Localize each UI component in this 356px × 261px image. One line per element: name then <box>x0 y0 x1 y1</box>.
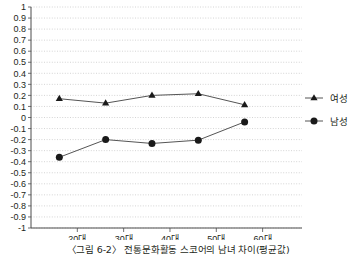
y-axis-tick-label: -0.7 <box>10 190 26 200</box>
y-axis-tick-label: 0.7 <box>13 35 26 45</box>
legend-triangle-marker-icon <box>310 94 317 100</box>
y-axis-tick-label: 0 <box>21 113 26 123</box>
y-axis-tick-label: -0.8 <box>10 201 26 211</box>
y-axis-tick-label: 0.6 <box>13 46 26 56</box>
y-axis-tick-label: -0.9 <box>10 212 26 222</box>
y-axis-tick-label: 0.4 <box>13 69 26 79</box>
legend-circle-marker-icon <box>311 118 318 125</box>
y-axis-tick-label: -0.5 <box>10 168 26 178</box>
data-point-marker <box>148 92 155 98</box>
data-point-marker <box>56 154 63 161</box>
y-axis-tick-label: -0.3 <box>10 146 26 156</box>
x-axis-tick-label: 20대 <box>68 234 86 240</box>
x-axis-tick-label: 50대 <box>207 234 225 240</box>
y-axis-tick-label: 0.5 <box>13 57 26 67</box>
y-axis-ticks-group: 10.90.80.70.60.50.40.30.20.10-0.1-0.2-0.… <box>10 2 31 233</box>
chart-plot-area: 10.90.80.70.60.50.40.30.20.10-0.1-0.2-0.… <box>0 0 356 240</box>
gridlines-group <box>31 7 302 228</box>
series-markers-group <box>56 90 248 161</box>
figure-caption: 〈그림 6-2〉 전통문화활동 스코어의 남녀 차이(평균값) <box>0 242 356 256</box>
x-axis-tick-label: 60대 <box>254 234 272 240</box>
data-point-marker <box>102 136 109 143</box>
legend-label: 남성 <box>330 116 348 127</box>
y-axis-tick-label: 0.9 <box>13 13 26 23</box>
y-axis-tick-label: -0.2 <box>10 135 26 145</box>
y-axis-tick-label: -0.4 <box>10 157 26 167</box>
data-point-marker <box>241 118 248 125</box>
legend-label: 여성 <box>330 93 348 104</box>
data-point-marker <box>148 140 155 147</box>
x-axis-ticks-group: 20대30대40대50대60대 <box>68 228 271 240</box>
figure-container: 10.90.80.70.60.50.40.30.20.10-0.1-0.2-0.… <box>0 0 356 261</box>
line-chart-svg: 10.90.80.70.60.50.40.30.20.10-0.1-0.2-0.… <box>0 0 356 240</box>
data-point-marker <box>195 137 202 144</box>
y-axis-tick-label: 1 <box>21 2 26 12</box>
y-axis-tick-label: 0.8 <box>13 24 26 34</box>
y-axis-tick-label: -1 <box>18 223 26 233</box>
y-axis-tick-label: -0.1 <box>10 124 26 134</box>
x-axis-tick-label: 40대 <box>161 234 179 240</box>
series-line <box>59 122 244 157</box>
y-axis-tick-label: 0.2 <box>13 91 26 101</box>
legend-group: 여성남성 <box>305 93 348 127</box>
series-lines-group <box>59 94 244 158</box>
x-axis-tick-label: 30대 <box>115 234 133 240</box>
data-point-marker <box>195 90 202 96</box>
y-axis-tick-label: -0.6 <box>10 179 26 189</box>
data-point-marker <box>56 95 63 101</box>
y-axis-tick-label: 0.3 <box>13 80 26 90</box>
y-axis-tick-label: 0.1 <box>13 102 26 112</box>
